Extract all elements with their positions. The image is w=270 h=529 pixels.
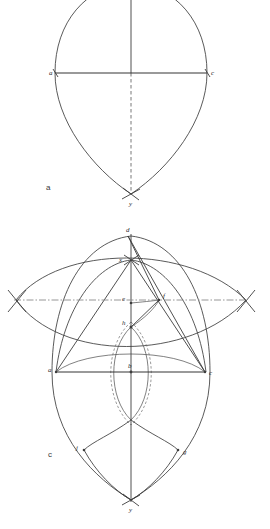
figure-c-inner-lens-left xyxy=(114,327,131,420)
figure-c-line-x-to-a xyxy=(56,260,131,372)
figure-a-point-label-c: c xyxy=(211,69,215,77)
figure-c-point-label-f: f xyxy=(163,292,166,300)
figure-c-caption: c xyxy=(48,450,52,459)
figure-c-point-label-y: y xyxy=(128,506,133,514)
figure-a-canvas: a c y a xyxy=(0,0,270,220)
figure-c-point-label-j: j xyxy=(75,444,78,452)
figure-c-dot-a xyxy=(55,371,57,373)
figure-a-point-label-a: a xyxy=(49,69,53,77)
figure-a-oval-right xyxy=(131,0,207,194)
plate-root: a c y a xyxy=(0,0,270,529)
figure-c-dot-c xyxy=(204,371,206,373)
figure-c-dot-f xyxy=(158,299,161,302)
figure-c-point-label-h: h xyxy=(122,319,126,327)
figure-c-point-label-d: d xyxy=(126,226,130,234)
figure-c-point-label-e: e xyxy=(122,295,125,303)
figure-c-dot-b xyxy=(130,371,133,374)
figure-a-oval-left xyxy=(55,0,131,194)
figure-c-dot-j xyxy=(83,449,86,452)
figure-a-caption: a xyxy=(46,183,51,192)
figure-c-vertical-oval-right xyxy=(131,236,210,500)
figure-c-point-label-x: x xyxy=(118,256,123,264)
figure-c-lower-arc-right-outer xyxy=(131,450,178,500)
figure-c-point-label-b: b xyxy=(128,362,132,370)
figure-c-line-h-to-f xyxy=(131,300,159,327)
figure-c-dot-e xyxy=(130,302,133,305)
figure-c-canvas: d x e f h a b c j g y c xyxy=(0,220,270,529)
figure-c-inner-lens-right xyxy=(131,327,148,420)
figure-c-point-label-c: c xyxy=(209,369,213,377)
figure-c-line-d-to-c xyxy=(128,236,205,372)
figure-c-point-label-a: a xyxy=(48,366,52,374)
figure-c-lower-arc-left-outer xyxy=(84,450,131,500)
figure-c-lower-arc-right-gy xyxy=(131,420,178,450)
figure-c-dot-g xyxy=(177,449,180,452)
figure-c-point-label-g: g xyxy=(183,448,187,456)
figure-c-dot-h xyxy=(130,326,133,329)
figure-c-vertical-oval-left xyxy=(52,236,131,500)
figure-c-line-d-to-f xyxy=(128,236,159,300)
figure-a-point-label-y: y xyxy=(128,200,133,208)
figure-c-lower-arc-left-jy xyxy=(84,420,131,450)
figure-c-arc-e-to-f xyxy=(131,300,159,303)
